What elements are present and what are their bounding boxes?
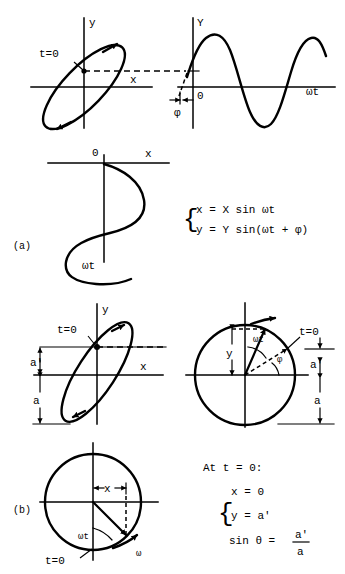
- xy-ellipse-plot-b: t=0 y x a' a: [30, 304, 166, 431]
- figure-canvas: t=0 y x Y 0 ωt φ 0 x ωt {: [0, 0, 345, 574]
- dim-label-a-prime-b: a': [30, 357, 43, 369]
- phi-label: φ: [174, 107, 181, 119]
- dim-label-a-b: a: [33, 395, 40, 407]
- x-projection-label: x: [104, 483, 111, 495]
- ellipse-x-axis-label: x: [130, 74, 137, 86]
- ellipse-b-t0-leader-line: [88, 336, 96, 346]
- t0-label-xcircle: t=0: [45, 555, 65, 567]
- ycircle-dim-label-a: a: [314, 395, 321, 407]
- xwave-t-axis-label: ωt: [82, 260, 95, 272]
- ywave-origin-label: 0: [197, 90, 204, 102]
- y-phasor-circle: y ωt φ t=0 a' a: [186, 303, 334, 427]
- y-vs-omega-t-waveform: Y 0 ωt φ: [170, 17, 335, 128]
- ellipse-direction-arrow-lower: [57, 122, 71, 129]
- ywave-t-axis-label: ωt: [306, 86, 319, 98]
- t0-label-ycircle: t=0: [299, 326, 319, 338]
- part-b-conditions: At t = 0: { x = 0 y = a' sin θ = a' a: [203, 462, 309, 558]
- part-a-equations: { x = X sin ωt y = Y sin(ωt + φ): [183, 204, 308, 236]
- figure-svg: t=0 y x Y 0 ωt φ 0 x ωt {: [0, 0, 345, 574]
- x-phasor-circle: x ωt ω t=0: [40, 443, 158, 567]
- condition-x: x = 0: [231, 486, 264, 498]
- rotation-arrow-y: [251, 318, 275, 324]
- condition-y: y = a': [231, 510, 271, 522]
- equation-x-a: x = X sin ωt: [196, 204, 275, 216]
- ellipse-b-y-axis-label: y: [102, 304, 109, 316]
- ellipse-y-axis-label: y: [89, 17, 96, 29]
- ycircle-dim-label-a-prime: a': [310, 359, 323, 371]
- xy-ellipse-plot: t=0 y x: [31, 17, 186, 140]
- omega-t-angle-arc-x: [93, 528, 112, 540]
- ywave-y-axis-label: Y: [197, 17, 204, 29]
- ellipse-b-x-axis-label: x: [140, 361, 147, 373]
- omega-t-label-xcircle: ωt: [78, 532, 89, 542]
- t0-leader-line-ycircle: [288, 337, 300, 348]
- xwave-origin-label: 0: [92, 147, 99, 159]
- x-vs-omega-t-waveform: 0 x ωt: [48, 147, 169, 284]
- t0-label-b-ellipse: t=0: [57, 324, 77, 336]
- phi-label-ycircle: φ: [277, 355, 283, 365]
- x-sine-curve: [66, 164, 145, 284]
- part-label-b: (b): [13, 505, 31, 516]
- condition-sin-denominator: a: [297, 546, 304, 558]
- t0-label-a: t=0: [39, 48, 59, 60]
- xwave-x-axis-label: x: [145, 148, 152, 160]
- conditions-heading: At t = 0:: [203, 462, 262, 474]
- y-sine-curve: [187, 34, 326, 127]
- omega-label-xcircle: ω: [136, 549, 142, 559]
- omega-t-label-ycircle: ωt: [253, 335, 264, 345]
- condition-sin-numerator: a': [295, 529, 308, 541]
- equation-y-a: y = Y sin(ωt + φ): [196, 224, 308, 236]
- y-projection-label: y: [226, 348, 233, 360]
- part-label-a: (a): [13, 241, 31, 252]
- condition-sin-lhs: sin θ =: [229, 535, 275, 547]
